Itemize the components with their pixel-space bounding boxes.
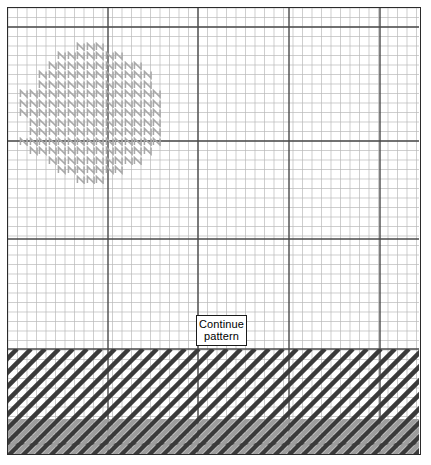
pattern-cell — [114, 104, 124, 114]
pattern-cell — [95, 161, 105, 171]
pattern-cell — [133, 56, 143, 66]
pattern-cell — [29, 132, 39, 142]
pattern-cell — [86, 161, 96, 171]
pattern-cell — [67, 75, 77, 85]
pattern-cell — [105, 56, 115, 66]
pattern-cell — [95, 56, 105, 66]
pattern-cell — [105, 132, 115, 142]
pattern-cell — [105, 161, 115, 171]
pattern-cell — [114, 47, 124, 57]
pattern-cell — [86, 37, 96, 47]
pattern-cell — [38, 85, 48, 95]
pattern-cell — [86, 132, 96, 142]
pattern-cell — [114, 56, 124, 66]
pattern-cell — [105, 47, 115, 57]
pattern-cell — [114, 66, 124, 76]
pattern-cell — [114, 142, 124, 152]
pattern-cell — [143, 85, 153, 95]
pattern-cell — [124, 104, 134, 114]
pattern-cell — [48, 104, 58, 114]
pattern-cell — [67, 142, 77, 152]
pattern-cell — [133, 132, 143, 142]
pattern-cell — [76, 142, 86, 152]
pattern-cell — [105, 113, 115, 123]
pattern-cell — [38, 66, 48, 76]
diagonal-hatch-band — [8, 349, 419, 455]
pattern-cell — [105, 75, 115, 85]
pattern-cell — [57, 113, 67, 123]
pattern-cell — [114, 85, 124, 95]
pattern-cell — [95, 170, 105, 180]
pattern-cell — [124, 132, 134, 142]
pattern-cell — [95, 142, 105, 152]
pattern-cell — [143, 75, 153, 85]
pattern-cell — [29, 113, 39, 123]
pattern-cell — [48, 75, 58, 85]
pattern-cell — [133, 151, 143, 161]
pattern-cell — [95, 151, 105, 161]
pattern-cell — [105, 123, 115, 133]
pattern-cell — [76, 37, 86, 47]
pattern-cell — [76, 85, 86, 95]
pattern-cell — [124, 151, 134, 161]
pattern-cell — [57, 66, 67, 76]
pattern-cell — [95, 94, 105, 104]
pattern-cell — [57, 75, 67, 85]
pattern-cell — [48, 113, 58, 123]
pattern-cell — [76, 161, 86, 171]
pattern-cell — [152, 132, 162, 142]
pattern-cell — [86, 66, 96, 76]
pattern-cell — [57, 94, 67, 104]
pattern-cell — [19, 104, 29, 114]
pattern-cell — [67, 113, 77, 123]
pattern-cell — [76, 104, 86, 114]
pattern-cell — [124, 123, 134, 133]
pattern-cell — [29, 123, 39, 133]
pattern-cell — [143, 104, 153, 114]
pattern-cell — [67, 123, 77, 133]
pattern-cell — [124, 66, 134, 76]
pattern-cell — [133, 142, 143, 152]
pattern-cell — [48, 132, 58, 142]
pattern-cell — [124, 85, 134, 95]
pattern-cell — [133, 104, 143, 114]
pattern-cell — [57, 47, 67, 57]
pattern-cell — [133, 94, 143, 104]
pattern-cell — [57, 56, 67, 66]
pattern-cell — [95, 132, 105, 142]
pattern-cell — [105, 104, 115, 114]
pattern-cell — [86, 170, 96, 180]
pattern-cell — [105, 151, 115, 161]
pattern-cell — [86, 151, 96, 161]
callout-line-1: Continue — [199, 318, 244, 331]
pattern-cell — [67, 56, 77, 66]
pattern-cell — [86, 75, 96, 85]
pattern-cell — [48, 94, 58, 104]
pattern-cell — [95, 85, 105, 95]
pattern-cell — [133, 85, 143, 95]
pattern-cell — [152, 94, 162, 104]
pattern-cell — [133, 66, 143, 76]
pattern-cell — [48, 123, 58, 133]
pattern-cell — [86, 47, 96, 57]
pattern-cell — [95, 123, 105, 133]
callout-line-2: pattern — [204, 330, 239, 343]
pattern-cell — [95, 66, 105, 76]
pattern-cell — [67, 94, 77, 104]
pattern-cell — [19, 132, 29, 142]
graph-paper: Continue pattern — [7, 7, 421, 455]
pattern-cell — [76, 94, 86, 104]
pattern-cell — [95, 37, 105, 47]
pattern-cell — [105, 85, 115, 95]
pattern-cell — [105, 94, 115, 104]
pattern-cell — [67, 66, 77, 76]
pattern-cell — [57, 151, 67, 161]
pattern-cell — [133, 113, 143, 123]
pattern-cell — [67, 161, 77, 171]
pattern-cell — [143, 94, 153, 104]
pattern-cell — [67, 104, 77, 114]
pattern-cell — [95, 75, 105, 85]
pattern-cell — [67, 85, 77, 95]
pattern-cell — [76, 151, 86, 161]
pattern-cell — [57, 104, 67, 114]
